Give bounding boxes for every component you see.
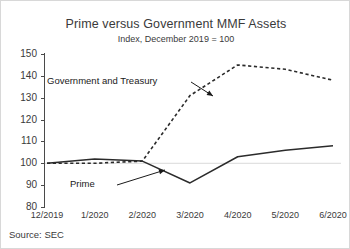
y-tick-label: 140 [1,71,37,81]
x-tick-label: 1/2020 [81,210,109,220]
x-tick-label: 4/2020 [224,210,252,220]
annotation-arrows [117,82,213,185]
y-tick-label: 130 [1,93,37,103]
annotation-leader-line [117,170,165,185]
x-tick-label: 2/2020 [129,210,157,220]
y-tick-label: 100 [1,158,37,168]
x-tick-label: 5/2020 [272,210,300,220]
chart-figure: Prime versus Government MMF Assets Index… [0,0,350,249]
y-tick-label: 120 [1,115,37,125]
x-tick-label: 12/2019 [31,210,64,220]
x-axis-labels: 12/20191/20202/20203/20204/20205/20206/2… [1,210,350,224]
x-tick-label: 6/2020 [319,210,347,220]
annotation-prime: Prime [70,178,95,189]
source-note: Source: SEC [9,229,64,240]
y-tick-label: 110 [1,136,37,146]
y-tick-label: 90 [1,180,37,190]
chart-subtitle: Index, December 2019 = 100 [1,34,350,44]
annotation-arrowhead [207,91,213,96]
chart-title: Prime versus Government MMF Assets [1,17,350,31]
annotation-government-and-treasury: Government and Treasury [47,75,157,86]
y-tick-label: 150 [1,49,37,59]
x-tick-label: 3/2020 [176,210,204,220]
